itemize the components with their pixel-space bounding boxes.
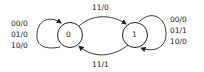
edge-1-to-0 — [79, 45, 128, 55]
edge-1-to-0-label: 11/1 — [92, 60, 109, 69]
edge-0-to-1-label: 11/0 — [92, 3, 109, 12]
edge-0-to-1 — [79, 17, 126, 26]
left-loop-label-2: 01/0 — [11, 30, 28, 39]
left-loop-label-3: 10/0 — [11, 41, 28, 50]
right-loop-label-3: 10/0 — [170, 37, 187, 46]
state-0-label: 0 — [66, 30, 71, 39]
left-loop-label-1: 00/0 — [11, 19, 28, 28]
right-loop-label-1: 00/0 — [170, 15, 187, 24]
state-1-label: 1 — [132, 30, 137, 39]
right-loop-label-2: 01/1 — [170, 26, 187, 35]
